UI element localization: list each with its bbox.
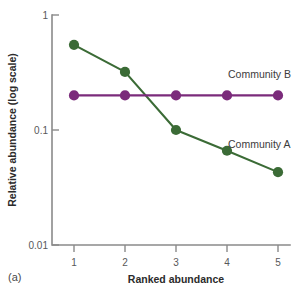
data-point — [273, 90, 283, 100]
data-point — [120, 67, 130, 77]
data-point — [171, 90, 181, 100]
series-label-community-a: Community A — [228, 138, 290, 150]
y-axis-title: Relative abundance (log scale) — [6, 53, 18, 206]
data-point — [222, 90, 232, 100]
data-point — [69, 90, 79, 100]
x-tick-label-1: 1 — [71, 257, 77, 268]
x-tick-label-3: 3 — [173, 257, 179, 268]
data-point — [69, 40, 79, 50]
x-tick-label-4: 4 — [224, 257, 230, 268]
series-line — [74, 45, 278, 172]
x-axis-ticks — [74, 245, 278, 252]
x-tick-label-2: 2 — [122, 257, 128, 268]
x-axis-title: Ranked abundance — [128, 273, 224, 285]
series-community-b — [69, 90, 283, 100]
series-layer — [69, 40, 283, 177]
data-point — [273, 167, 283, 177]
data-point — [171, 125, 181, 135]
data-point — [120, 90, 130, 100]
y-tick-label-0.01: 0.01 — [29, 240, 49, 251]
y-tick-label-0.1: 0.1 — [34, 125, 48, 136]
y-axis-ticks — [52, 15, 59, 245]
panel-label: (a) — [8, 271, 21, 283]
series-community-a — [69, 40, 283, 177]
chart-canvas: 1 0.1 0.01 1 2 3 4 5 Ranked abundance Re… — [0, 0, 303, 292]
y-tick-label-1: 1 — [42, 10, 48, 21]
series-label-community-b: Community B — [228, 68, 291, 80]
figure-panel: 1 0.1 0.01 1 2 3 4 5 Ranked abundance Re… — [0, 0, 303, 292]
x-tick-label-5: 5 — [275, 257, 281, 268]
